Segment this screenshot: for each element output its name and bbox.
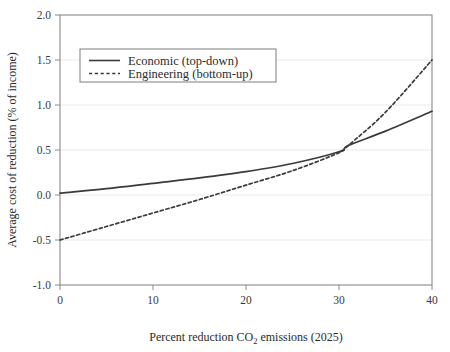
y-tick-label: 0.0	[37, 189, 52, 201]
y-tick-label: -0.5	[33, 234, 51, 246]
y-tick-label: 0.5	[37, 144, 52, 156]
y-tick-label: -1.0	[33, 279, 51, 291]
x-tick-label: 30	[333, 294, 345, 306]
y-axis-title: Average cost of reduction (% of income)	[5, 52, 19, 248]
legend-label-economic: Economic (top-down)	[128, 54, 238, 68]
legend: Economic (top-down) Engineering (bottom-…	[80, 49, 276, 82]
x-axis-title: Percent reduction CO2 emissions (2025)	[149, 330, 343, 346]
x-tick-label: 40	[426, 294, 438, 306]
y-tick-label: 2.0	[37, 9, 52, 21]
legend-label-engineering: Engineering (bottom-up)	[128, 67, 253, 81]
line-chart: 010203040 -1.0-0.50.00.51.01.52.0 Econom…	[0, 0, 450, 352]
x-tick-label: 0	[57, 294, 63, 306]
chart-figure: 010203040 -1.0-0.50.00.51.01.52.0 Econom…	[0, 0, 450, 352]
x-tick-label: 10	[147, 294, 159, 306]
y-tick-label: 1.0	[37, 99, 52, 111]
x-tick-label: 20	[240, 294, 252, 306]
y-tick-label: 1.5	[37, 54, 52, 66]
